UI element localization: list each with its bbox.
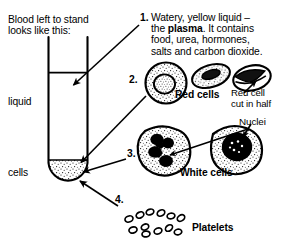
callout-1-line2-post: . It contains (203, 23, 254, 34)
white-cell-round-nucleus (223, 134, 252, 161)
label-platelets: Platelets (192, 222, 233, 233)
platelet (176, 213, 186, 222)
leader-lines (74, 25, 147, 206)
platelet (140, 223, 149, 231)
platelet (142, 231, 151, 238)
callout-1-line2-pre: the (151, 23, 168, 34)
callout-number-3: 3. (127, 148, 135, 159)
test-tube (49, 37, 88, 181)
label-red-cells: Red cells (175, 89, 219, 100)
tube-outline (49, 37, 88, 181)
platelet (174, 228, 183, 235)
platelet (167, 212, 176, 219)
platelet (153, 227, 163, 235)
label-white-cells: White cells (180, 167, 233, 178)
platelet (145, 208, 154, 216)
annotation-cut-line2: cut in half (231, 98, 271, 109)
platelet (128, 226, 138, 234)
tube-label-liquid: liquid (8, 96, 31, 107)
callout-number-4: 4. (115, 194, 123, 205)
callout-text-1: Watery, yellow liquid –the plasma. It co… (151, 12, 285, 57)
tube-cell-layer (49, 160, 88, 181)
leader-line-platelets (80, 181, 118, 206)
annotation-nuclei: Nuclei (239, 116, 266, 127)
leader-line-red-cells (81, 96, 146, 163)
callout-1-line3: food, urea, hormones, (151, 34, 250, 45)
figure-heading-line1: Blood left to stand (8, 14, 89, 25)
platelet (135, 211, 145, 220)
callout-number-1: 1. (140, 12, 148, 23)
callout-number-2: 2. (129, 74, 137, 85)
callout-1-plasma-term: plasma (168, 23, 203, 34)
callout-1-line4: salts and carbon dioxide. (151, 46, 262, 57)
callout-1-line1: Watery, yellow liquid – (151, 12, 250, 23)
annotation-red-cell-cut-in-half: Red cellcut in half (231, 88, 271, 109)
platelets-group (124, 208, 186, 237)
platelet (156, 208, 166, 217)
platelet (124, 215, 134, 223)
tube-label-cells: cells (8, 167, 28, 178)
blood-composition-figure: Blood left to standlooks like this: liqu… (0, 0, 286, 245)
leader-line-white-cells (83, 159, 126, 172)
annotation-cut-line1: Red cell (231, 87, 265, 98)
figure-heading-line2: looks like this: (8, 25, 71, 36)
red-cell-tilted (189, 60, 233, 92)
figure-heading: Blood left to standlooks like this: (8, 14, 89, 36)
platelet (164, 223, 174, 232)
